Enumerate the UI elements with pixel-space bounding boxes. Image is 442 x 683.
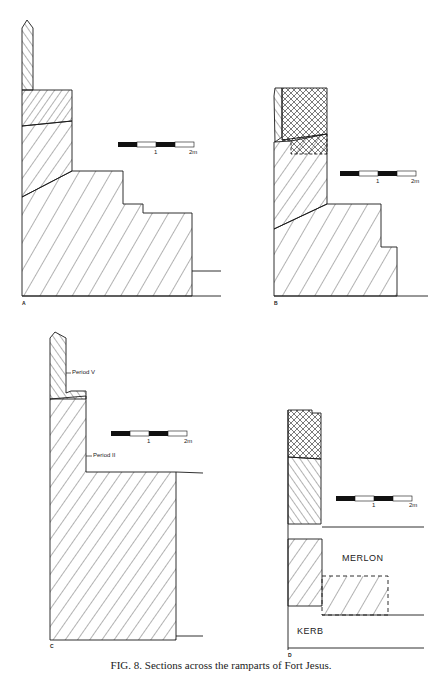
annotation-kerb: KERB <box>297 626 324 636</box>
section-d <box>288 410 424 650</box>
panel-label-d: D <box>288 652 292 658</box>
scale-a-tick-2: 2m <box>189 149 197 155</box>
scale-c-tick-2: 2m <box>184 438 192 444</box>
panel-label-b: B <box>274 300 278 306</box>
scale-d-tick-2: 2m <box>409 502 417 508</box>
figure-caption: FIG. 8. Sections across the ramparts of … <box>0 659 442 671</box>
scale-c-tick-1: 1 <box>147 438 150 444</box>
scale-bar-a <box>118 142 194 147</box>
panel-label-a: A <box>22 300 26 306</box>
section-c <box>50 332 203 640</box>
caption-prefix: FIG. 8. <box>111 659 142 671</box>
scale-d-tick-1: 1 <box>372 502 375 508</box>
annotation-period-v: Period V <box>72 369 95 375</box>
scale-bar-b <box>340 171 416 176</box>
figure-canvas <box>0 0 442 683</box>
section-a <box>22 20 221 296</box>
scale-bar-c <box>111 431 187 436</box>
scale-bar-d <box>336 496 412 501</box>
caption-text: Sections across the ramparts of Fort Jes… <box>145 659 332 671</box>
scale-b-tick-2: 2m <box>411 178 419 184</box>
section-b <box>274 88 428 296</box>
scale-a-tick-1: 1 <box>154 149 157 155</box>
annotation-merlon: MERLON <box>342 553 384 563</box>
annotation-period-ii: Period II <box>93 452 115 458</box>
scale-b-tick-1: 1 <box>376 178 379 184</box>
panel-label-c: C <box>50 643 54 649</box>
